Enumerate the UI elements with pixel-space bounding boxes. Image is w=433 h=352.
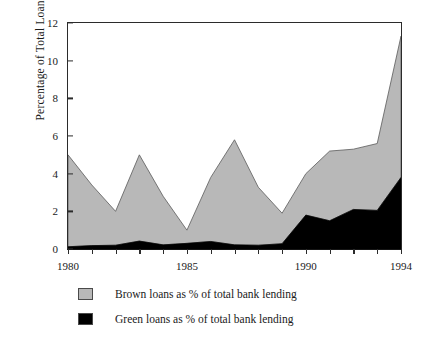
x-axis-tick-label: 1990 xyxy=(295,260,317,272)
y-axis-tick-label: 6 xyxy=(53,130,59,142)
y-axis-tick xyxy=(68,22,73,23)
x-axis-tick xyxy=(258,249,259,254)
y-axis-tick xyxy=(68,135,73,136)
x-axis-tick xyxy=(187,249,188,254)
legend-label-green: Green loans as % of total bank lending xyxy=(115,313,294,325)
plot-area: 0246810121980198519901994 xyxy=(67,22,402,250)
x-axis-tick xyxy=(282,249,283,254)
y-axis-tick-label: 0 xyxy=(53,243,59,255)
y-axis-tick-label: 8 xyxy=(53,92,59,104)
y-axis-tick xyxy=(68,211,73,212)
legend-label-brown: Brown loans as % of total bank lending xyxy=(115,288,297,300)
y-axis-tick xyxy=(68,173,73,174)
x-axis-tick xyxy=(68,249,69,254)
x-axis-tick-label: 1985 xyxy=(176,260,198,272)
y-axis-tick-label: 4 xyxy=(53,168,59,180)
x-axis-tick xyxy=(401,249,402,254)
x-axis-tick xyxy=(211,249,212,254)
x-axis-tick xyxy=(353,249,354,254)
x-axis-tick xyxy=(377,249,378,254)
x-axis-tick xyxy=(330,249,331,254)
legend-item-green: Green loans as % of total bank lending xyxy=(78,306,408,331)
chart-legend: Brown loans as % of total bank lending G… xyxy=(78,281,408,331)
legend-swatch-brown xyxy=(78,288,93,300)
y-axis-tick xyxy=(68,60,73,61)
x-axis-tick xyxy=(163,249,164,254)
y-axis-tick-label: 2 xyxy=(53,205,59,217)
x-axis-tick xyxy=(139,249,140,254)
y-axis-title: Percentage of Total Loans xyxy=(34,0,46,158)
x-axis-tick xyxy=(92,249,93,254)
chart-container: Percentage of Total Loans 02468101219801… xyxy=(0,0,433,352)
legend-swatch-green xyxy=(78,313,93,325)
area-chart-svg xyxy=(68,23,401,249)
x-axis-tick xyxy=(306,249,307,254)
y-axis-tick-label: 10 xyxy=(47,55,58,67)
legend-item-brown: Brown loans as % of total bank lending xyxy=(78,281,408,306)
x-axis-tick xyxy=(116,249,117,254)
x-axis-tick xyxy=(235,249,236,254)
y-axis-tick-label: 12 xyxy=(47,17,58,29)
y-axis-tick xyxy=(68,98,73,99)
x-axis-tick-label: 1980 xyxy=(57,260,79,272)
x-axis-tick-label: 1994 xyxy=(390,260,412,272)
